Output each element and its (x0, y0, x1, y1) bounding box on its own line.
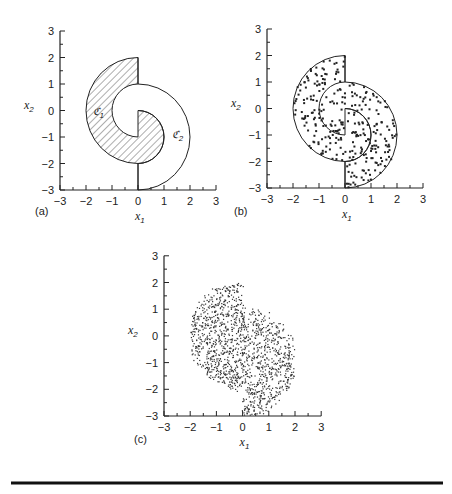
y-tick-label: 3 (255, 23, 261, 35)
x-tick-label: 1 (161, 195, 167, 207)
x-tick-label: 0 (135, 195, 141, 207)
panel-c: 3210−1−2−3−3−2−10123x1x2(c) (127, 250, 324, 451)
x-axis-title: x1 (239, 435, 250, 451)
panel-a: ℭ1ℭ23210−1−2−3−3−2−10123x1x2(a) (23, 25, 219, 225)
x-tick-label: 1 (368, 193, 374, 205)
y-tick-label: 0 (48, 105, 54, 117)
x-tick-label: 3 (420, 193, 426, 205)
label-c2: ℭ2 (172, 129, 184, 143)
axes: 3210−1−2−3−3−2−10123 (248, 23, 426, 205)
x-tick-label: −3 (261, 193, 274, 205)
x-tick-label: −2 (80, 195, 93, 207)
y-axis-title: x2 (127, 323, 138, 339)
y-tick-label: −3 (41, 184, 54, 196)
y-tick-label: 3 (48, 25, 54, 37)
x-tick-label: −2 (287, 193, 300, 205)
x-tick-label: −3 (54, 195, 67, 207)
y-tick-label: −3 (248, 182, 261, 194)
y-tick-label: −1 (145, 357, 158, 369)
y-tick-label: −1 (248, 129, 261, 141)
y-tick-label: −2 (145, 383, 158, 395)
x-tick-label: −1 (313, 193, 326, 205)
y-tick-label: 0 (255, 103, 261, 115)
x-tick-label: 2 (187, 195, 193, 207)
panel-label: (a) (35, 205, 48, 217)
panel-label: (b) (234, 205, 247, 217)
panel-label: (c) (134, 433, 147, 445)
y-tick-label: 1 (255, 76, 261, 88)
panel-b: 3210−1−2−3−3−2−10123x1x2(b) (230, 23, 426, 223)
y-tick-label: 1 (152, 303, 158, 315)
figure: ℭ1ℭ23210−1−2−3−3−2−10123x1x2(a) 3210−1−2… (0, 0, 452, 494)
point-cloud (191, 283, 296, 416)
y-tick-label: 2 (152, 277, 158, 289)
axes: 3210−1−2−3−3−2−10123 (41, 25, 219, 207)
x-tick-label: −2 (184, 421, 197, 433)
x-tick-label: 0 (342, 193, 348, 205)
y-tick-label: 0 (152, 330, 158, 342)
region-c1 (293, 56, 371, 162)
y-tick-label: −2 (248, 156, 261, 168)
axes: 3210−1−2−3−3−2−10123 (145, 250, 324, 433)
x-tick-label: −1 (210, 421, 223, 433)
y-tick-label: 1 (48, 78, 54, 90)
x-tick-label: 1 (266, 421, 272, 433)
x-axis-title: x1 (341, 207, 352, 223)
x-tick-label: 3 (318, 421, 324, 433)
y-tick-label: −2 (41, 158, 54, 170)
y-tick-label: 2 (48, 52, 54, 64)
x-tick-label: 2 (394, 193, 400, 205)
y-tick-label: 3 (152, 250, 158, 262)
spiral-regions (86, 58, 190, 191)
x-tick-label: 0 (240, 421, 246, 433)
x-tick-label: 2 (292, 421, 298, 433)
y-axis-title: x2 (23, 98, 34, 114)
x-tick-label: −3 (158, 421, 171, 433)
y-axis-title: x2 (230, 96, 241, 112)
x-axis-title: x1 (134, 209, 145, 225)
y-tick-label: 2 (255, 50, 261, 62)
y-tick-label: −1 (41, 131, 54, 143)
x-tick-label: 3 (213, 195, 219, 207)
x-tick-label: −1 (106, 195, 119, 207)
y-tick-label: −3 (145, 410, 158, 422)
